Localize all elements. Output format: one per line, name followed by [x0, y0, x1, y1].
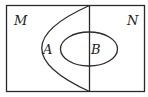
- label-a: A: [42, 42, 52, 57]
- label-n: N: [126, 13, 139, 28]
- label-m: M: [13, 13, 28, 28]
- venn-diagram: M N A B: [0, 0, 148, 97]
- label-b: B: [90, 42, 101, 57]
